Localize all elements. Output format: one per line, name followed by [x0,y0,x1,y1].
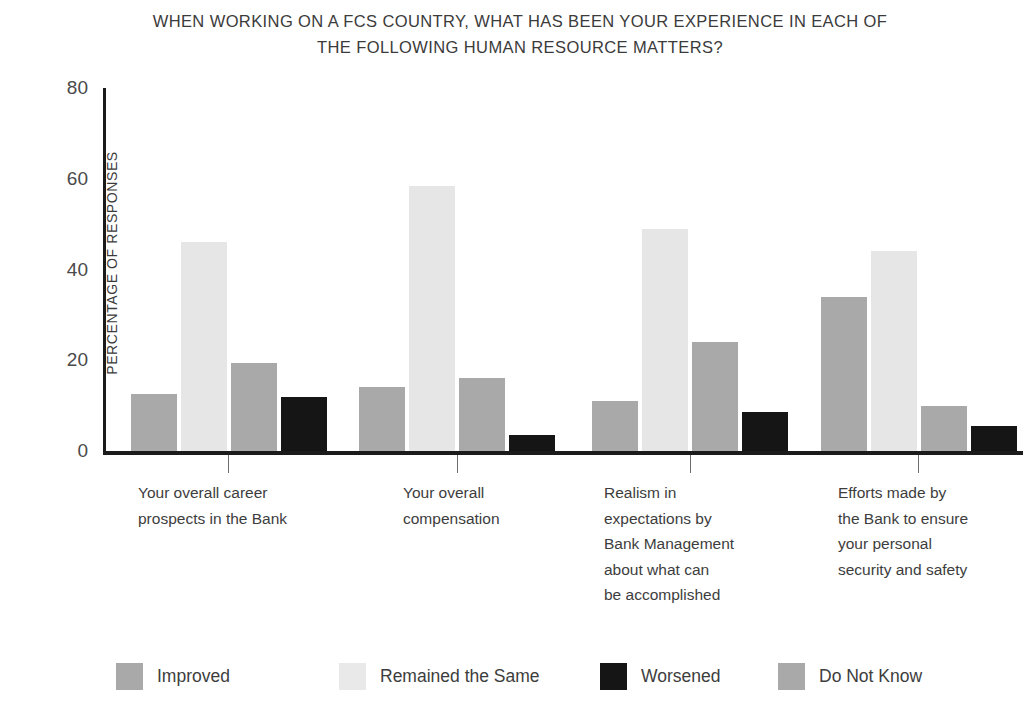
y-axis-tick-label: 60 [10,169,88,188]
x-axis-category-label: Your overall careerprospects in the Bank [138,480,338,531]
category-label-line: your personal [838,531,1033,557]
bar [821,297,867,451]
category-label-line: about what can [604,557,804,583]
category-label-line: be accomplished [604,582,804,608]
legend-swatch [116,663,143,690]
bar [359,387,405,451]
category-label-line: expectations by [604,506,804,532]
legend-item[interactable]: Remained the Same [339,663,540,690]
legend-item[interactable]: Worsened [600,663,720,690]
y-axis-line [103,88,106,453]
x-axis-category-label: Your overallcompensation [403,480,603,531]
bar [231,363,277,451]
x-axis-tick [690,455,691,473]
bar [921,406,967,451]
bar [131,394,177,451]
category-label-line: Efforts made by [838,480,1033,506]
bar [409,186,455,451]
legend-swatch [600,663,627,690]
x-axis-tick [228,455,229,473]
plot-area [103,88,1023,453]
x-axis-category-label: Realism inexpectations byBank Management… [604,480,804,608]
bar [181,242,227,451]
category-label-line: Bank Management [604,531,804,557]
legend-item[interactable]: Improved [116,663,230,690]
y-axis-tick-label: 80 [10,78,88,97]
bar [742,412,788,451]
y-axis-tick-label: 40 [10,260,88,279]
category-label-line: prospects in the Bank [138,506,338,532]
category-label-line: security and safety [838,557,1033,583]
legend-label: Do Not Know [819,666,922,687]
chart-title-line-1: WHEN WORKING ON A FCS COUNTRY, WHAT HAS … [120,8,920,34]
legend-label: Remained the Same [380,666,540,687]
bar [871,251,917,451]
bar [459,378,505,451]
y-axis-tick-label: 0 [10,441,88,460]
category-label-line: Your overall career [138,480,338,506]
x-axis-category-label: Efforts made bythe Bank to ensureyour pe… [838,480,1033,582]
bar [592,401,638,451]
x-axis-tick [457,455,458,473]
y-axis-tick-label: 20 [10,350,88,369]
bar [692,342,738,451]
legend-swatch [778,663,805,690]
category-label-line: compensation [403,506,603,532]
bar [971,426,1017,451]
bar [509,435,555,451]
chart-title-line-2: THE FOLLOWING HUMAN RESOURCE MATTERS? [120,34,920,60]
chart-title: WHEN WORKING ON A FCS COUNTRY, WHAT HAS … [120,8,920,60]
legend-label: Improved [157,666,230,687]
category-label-line: Realism in [604,480,804,506]
category-label-line: Your overall [403,480,603,506]
bar [642,229,688,451]
chart-legend: ImprovedRemained the SameWorsenedDo Not … [0,663,1033,701]
x-axis-line [103,451,1023,455]
category-label-line: the Bank to ensure [838,506,1033,532]
bar [281,397,327,451]
x-axis-tick [918,455,919,473]
legend-item[interactable]: Do Not Know [778,663,922,690]
legend-label: Worsened [641,666,720,687]
legend-swatch [339,663,366,690]
